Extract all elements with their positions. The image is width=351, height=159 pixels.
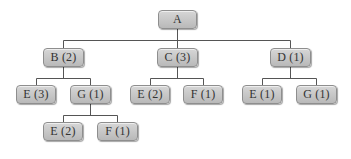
- tree-node-d: D (1): [270, 48, 311, 67]
- tree-node-c: C (3): [157, 48, 198, 67]
- tree-node-b-g: G (1): [70, 85, 111, 104]
- tree-node-c-f: F (1): [183, 85, 223, 104]
- tree-node-c-e: E (2): [130, 85, 170, 104]
- tree-node-b: B (2): [43, 48, 84, 67]
- tree-node-d-g: G (1): [296, 85, 337, 104]
- tree-node-b-g-e: E (2): [43, 122, 83, 141]
- tree-node-a: A: [158, 10, 197, 29]
- tree-node-b-e: E (3): [16, 85, 56, 104]
- tree-node-b-g-f: F (1): [97, 122, 138, 141]
- tree-node-d-e: E (1): [242, 85, 282, 104]
